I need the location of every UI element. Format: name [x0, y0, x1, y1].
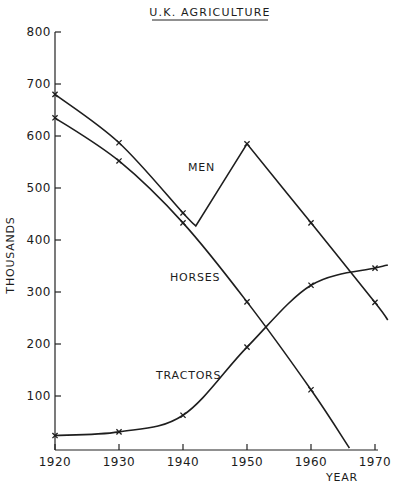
x-axis-label: YEAR: [325, 471, 358, 484]
data-point-marker: [308, 220, 313, 225]
series-group: [52, 92, 387, 448]
x-tick-label: 1950: [231, 455, 264, 469]
chart-title: U.K. AGRICULTURE: [149, 6, 270, 19]
data-point-marker: [244, 141, 249, 146]
y-axis-label: THOUSANDS: [4, 216, 17, 294]
data-point-marker: [116, 158, 121, 163]
y-tick-label: 500: [27, 181, 51, 195]
data-point-marker: [116, 140, 121, 145]
y-tick-label: 600: [27, 129, 51, 143]
y-tick-label: 400: [27, 233, 51, 247]
data-point-marker: [180, 220, 185, 225]
line-chart: U.K. AGRICULTURE THOUSANDS 1002003004005…: [0, 0, 396, 488]
y-tick-label: 700: [27, 77, 51, 91]
x-tick-label: 1920: [39, 455, 72, 469]
y-axis: 100200300400500600700800: [27, 25, 61, 450]
x-tick-label: 1970: [359, 455, 392, 469]
x-axis: 192019301940195019601970: [39, 444, 392, 469]
y-tick-label: 200: [27, 337, 51, 351]
x-tick-label: 1930: [103, 455, 136, 469]
y-tick-label: 300: [27, 285, 51, 299]
series-label-men: MEN: [188, 161, 215, 174]
series-line-men: [55, 94, 388, 320]
series-label-horses: HORSES: [170, 271, 220, 284]
x-tick-label: 1940: [167, 455, 200, 469]
data-point-marker: [180, 413, 185, 418]
data-point-marker: [244, 345, 249, 350]
y-tick-label: 100: [27, 389, 51, 403]
data-point-marker: [308, 283, 313, 288]
x-tick-label: 1960: [295, 455, 328, 469]
data-point-marker: [180, 210, 185, 215]
series-line-tractors: [55, 265, 388, 436]
data-point-marker: [372, 300, 377, 305]
data-point-marker: [308, 387, 313, 392]
data-point-marker: [244, 299, 249, 304]
y-tick-label: 800: [27, 25, 51, 39]
series-label-tractors: TRACTORS: [155, 369, 221, 382]
